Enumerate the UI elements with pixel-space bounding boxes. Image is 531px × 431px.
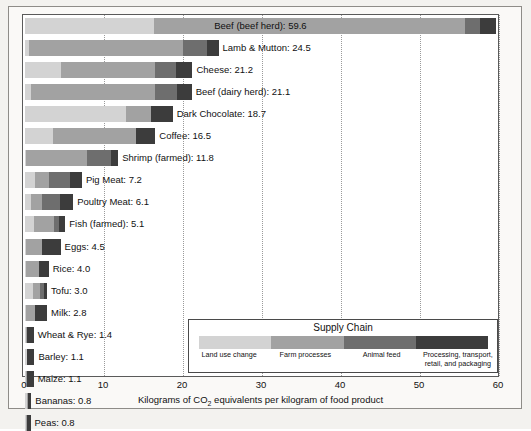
x-axis-title: Kilograms of CO2 equivalents per kilogra…	[22, 394, 499, 407]
stacked-bar	[25, 84, 192, 100]
bar-row[interactable]: Poultry Meat: 6.1	[25, 194, 498, 210]
legend-swatch-0	[199, 336, 271, 349]
bar-segment-processing-transport-retail-packaging	[39, 261, 48, 277]
x-tick-label: 60	[493, 379, 504, 390]
legend-labels: Land use changeFarm processesAnimal feed…	[191, 351, 496, 368]
bar-segment-processing-transport-retail-packaging	[111, 150, 118, 166]
bar-value-label: Tofu: 3.0	[47, 283, 87, 299]
bar-row[interactable]: Beef (dairy herd): 21.1	[25, 84, 498, 100]
bar-segment-animal-feed	[155, 84, 177, 100]
bar-segment-farm-processes	[61, 62, 156, 78]
bar-segment-animal-feed	[183, 40, 207, 56]
bar-row[interactable]: Lamb & Mutton: 24.5	[25, 40, 498, 56]
plot-area: Beef (beef herd): 59.6Lamb & Mutton: 24.…	[22, 14, 499, 377]
x-tick-label: 30	[256, 379, 267, 390]
bar-segment-land-use-change	[25, 283, 33, 299]
bar-value-label: Wheat & Rye: 1.4	[34, 327, 112, 343]
bar-segment-farm-processes	[26, 239, 42, 255]
bar-segment-farm-processes	[26, 150, 88, 166]
stacked-bar	[25, 283, 47, 299]
bar-segment-processing-transport-retail-packaging	[176, 62, 193, 78]
stacked-bar	[25, 305, 47, 321]
legend-swatch-1	[271, 336, 343, 349]
bar-segment-farm-processes	[53, 128, 135, 144]
bar-value-label: Dark Chocolate: 18.7	[173, 106, 266, 122]
bar-segment-processing-transport-retail-packaging	[42, 239, 61, 255]
bar-segment-farm-processes	[29, 40, 183, 56]
bar-row[interactable]: Beef (beef herd): 59.6	[25, 18, 498, 34]
bar-value-label: Pig Meat: 7.2	[82, 172, 142, 188]
bar-row[interactable]: Shrimp (farmed): 11.8	[25, 150, 498, 166]
legend: Supply Chain Land use changeFarm process…	[188, 319, 498, 373]
bar-value-label: Barley: 1.1	[34, 349, 83, 365]
bar-segment-farm-processes	[26, 305, 35, 321]
bar-segment-land-use-change	[25, 216, 34, 232]
bar-segment-farm-processes	[126, 106, 150, 122]
stacked-bar	[25, 172, 82, 188]
bar-row[interactable]: Pig Meat: 7.2	[25, 172, 498, 188]
x-tick-label: 10	[98, 379, 109, 390]
stacked-bar	[25, 106, 173, 122]
legend-label-3: Processing, transport, retail, and packa…	[420, 351, 496, 368]
bar-row[interactable]: Peas: 0.8	[25, 415, 498, 431]
bar-row[interactable]: Coffee: 16.5	[25, 128, 498, 144]
legend-label-2: Animal feed	[344, 351, 420, 368]
bar-segment-farm-processes	[35, 172, 48, 188]
bar-value-label: Cheese: 21.2	[192, 62, 253, 78]
bar-segment-processing-transport-retail-packaging	[60, 194, 73, 210]
bar-segment-farm-processes	[31, 84, 155, 100]
legend-label-0: Land use change	[191, 351, 267, 368]
bar-segment-animal-feed	[155, 62, 176, 78]
stacked-bar	[25, 216, 65, 232]
bar-segment-farm-processes	[31, 194, 41, 210]
bar-row[interactable]: Eggs: 4.5	[25, 239, 498, 255]
bar-segment-processing-transport-retail-packaging	[70, 172, 82, 188]
x-axis: Kilograms of CO2 equivalents per kilogra…	[22, 377, 499, 411]
bar-row[interactable]: Dark Chocolate: 18.7	[25, 106, 498, 122]
legend-title: Supply Chain	[189, 322, 497, 334]
co2-subscript: 2	[208, 400, 212, 407]
legend-swatch-3	[416, 336, 488, 349]
bar-segment-processing-transport-retail-packaging	[177, 84, 192, 100]
bar-value-label: Fish (farmed): 5.1	[65, 216, 144, 232]
bar-segment-animal-feed	[87, 150, 111, 166]
bar-segment-processing-transport-retail-packaging	[207, 40, 219, 56]
bar-value-label: Shrimp (farmed): 11.8	[118, 150, 214, 166]
stacked-bar	[25, 194, 73, 210]
bar-segment-farm-processes	[26, 261, 39, 277]
stacked-bar	[25, 62, 192, 78]
bar-segment-land-use-change	[25, 128, 53, 144]
bar-segment-land-use-change	[25, 172, 35, 188]
bar-segment-processing-transport-retail-packaging	[136, 128, 156, 144]
bar-segment-processing-transport-retail-packaging	[27, 327, 34, 343]
legend-swatch-2	[344, 336, 416, 349]
bar-value-label: Coffee: 16.5	[155, 128, 211, 144]
bar-value-label: Lamb & Mutton: 24.5	[219, 40, 311, 56]
bar-value-label: Rice: 4.0	[49, 261, 91, 277]
legend-label-1: Farm processes	[267, 351, 343, 368]
stacked-bar	[25, 349, 34, 365]
bar-segment-animal-feed	[49, 172, 70, 188]
bar-value-label: Poultry Meat: 6.1	[73, 194, 149, 210]
x-tick-label: 20	[177, 379, 188, 390]
bar-row[interactable]: Fish (farmed): 5.1	[25, 216, 498, 232]
x-tick-label: 40	[335, 379, 346, 390]
bar-value-label: Milk: 2.8	[47, 305, 86, 321]
stacked-bar	[25, 239, 61, 255]
x-tick-label: 0	[21, 379, 26, 390]
bar-value-label: Eggs: 4.5	[61, 239, 105, 255]
bar-row[interactable]: Tofu: 3.0	[25, 283, 498, 299]
bar-value-label: Beef (beef herd): 59.6	[25, 18, 496, 34]
stacked-bar	[25, 128, 155, 144]
bar-segment-land-use-change	[25, 106, 126, 122]
legend-swatches	[199, 336, 488, 349]
bar-segment-processing-transport-retail-packaging	[27, 349, 34, 365]
stacked-bar	[25, 327, 34, 343]
bar-row[interactable]: Cheese: 21.2	[25, 62, 498, 78]
bar-segment-animal-feed	[42, 194, 60, 210]
stacked-bar	[25, 40, 219, 56]
bar-segment-land-use-change	[25, 62, 61, 78]
bar-row[interactable]: Rice: 4.0	[25, 261, 498, 277]
stacked-bar	[25, 261, 49, 277]
